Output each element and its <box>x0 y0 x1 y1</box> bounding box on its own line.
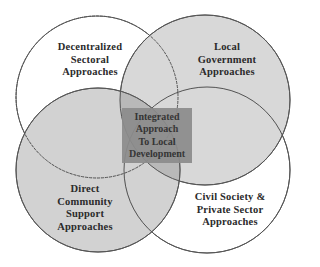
label-bottom-left: Direct Community Support Approaches <box>45 183 125 233</box>
label-top-right: Local Government Approaches <box>182 41 272 79</box>
label-bottom-right: Civil Society & Private Sector Approache… <box>180 191 280 229</box>
label-top-left: Decentralized Sectoral Approaches <box>40 41 140 79</box>
center-label: Integrated Approach To Local Development <box>129 111 185 161</box>
center-integrated-approach: Integrated Approach To Local Development <box>122 108 192 163</box>
